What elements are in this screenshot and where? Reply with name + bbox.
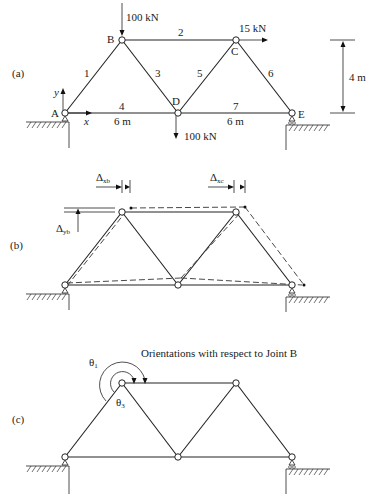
panel-b: (b)	[10, 171, 330, 312]
delta-xc-label: Δxc	[210, 171, 224, 185]
theta3-label: θ3	[116, 396, 125, 410]
member-6-c	[236, 383, 292, 457]
theta1-arc: θ1	[89, 356, 148, 401]
member-2-label: 2	[178, 26, 184, 38]
member-6	[236, 40, 292, 113]
load-d-label: 100 kN	[184, 130, 217, 142]
panel-b-label: (b)	[10, 239, 23, 252]
height-dimension: 4 m	[330, 40, 366, 113]
joint-c	[233, 37, 239, 43]
roller-support-e-b	[286, 288, 330, 312]
member-6-label: 6	[268, 67, 274, 79]
delta-xb-label: Δxb	[96, 171, 111, 185]
truss-figure: (a) 1 2 3 4 5 6 7 A B C D E	[0, 0, 375, 503]
member-3-c	[122, 383, 178, 457]
member-4-label: 4	[119, 100, 125, 112]
pin-support-a-b	[26, 288, 69, 310]
joint-b-label: B	[107, 33, 114, 45]
joint-b-b	[119, 209, 125, 215]
joint-d-b	[175, 282, 181, 288]
member-3	[122, 40, 178, 113]
member-3-b	[122, 212, 178, 285]
panel-a-label: (a)	[12, 67, 25, 80]
load-arrow-b: 100 kN	[120, 3, 159, 36]
load-b-label: 100 kN	[126, 11, 159, 23]
theta1-label: θ1	[89, 356, 98, 370]
delta-yb-label: Δyb	[56, 222, 71, 236]
pin-support-a	[26, 116, 69, 148]
y-axis-label: y	[53, 86, 59, 98]
roller-support-e-c	[286, 460, 330, 494]
joint-d	[175, 110, 181, 116]
member-5	[178, 40, 236, 113]
member-1	[65, 40, 122, 113]
delta-xb-dimension: Δxb	[96, 171, 130, 193]
member-1-b	[65, 212, 122, 285]
span-ad-label: 6 m	[114, 115, 131, 127]
theta3-arc: θ3	[111, 372, 137, 410]
load-arrow-c: 15 kN	[239, 22, 268, 43]
height-label: 4 m	[349, 71, 366, 83]
load-c-label: 15 kN	[239, 22, 266, 34]
panel-c: (c) Orientations with respect to Joint B…	[12, 347, 330, 494]
panel-a: (a) 1 2 3 4 5 6 7 A B C D E	[12, 3, 366, 150]
member-5-label: 5	[197, 67, 203, 79]
orientation-caption: Orientations with respect to Joint B	[141, 347, 297, 359]
joint-b	[119, 37, 125, 43]
joint-c-c	[233, 380, 239, 386]
x-axis-label: x	[83, 115, 89, 127]
joint-a-label: A	[51, 107, 59, 119]
member-6-b	[236, 212, 292, 285]
member-3-label: 3	[155, 67, 161, 79]
joint-e-label: E	[298, 108, 305, 120]
roller-support-e	[286, 116, 330, 150]
panel-c-label: (c)	[12, 413, 25, 426]
member-5-b	[178, 212, 236, 285]
member-5-c	[178, 383, 236, 457]
member-7-label: 7	[233, 100, 239, 112]
joint-d-label: D	[172, 95, 180, 107]
joint-d-c	[175, 454, 181, 460]
joint-c-label: C	[231, 45, 238, 57]
span-de-label: 6 m	[227, 115, 244, 127]
pin-support-a-c	[26, 460, 69, 494]
delta-xc-dimension: Δxc	[208, 171, 245, 193]
member-1-label: 1	[84, 67, 90, 79]
joint-b-c	[119, 380, 125, 386]
joint-c-b	[233, 209, 239, 215]
load-arrow-d: 100 kN	[174, 116, 217, 142]
member-1-c	[65, 383, 122, 457]
